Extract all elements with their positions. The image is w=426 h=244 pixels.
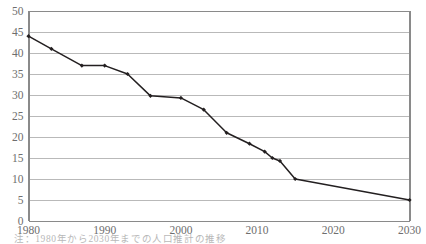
y-tick-label: 10 [12,173,24,185]
caption-strip: 注：1980年から2030年までの人口推計の推移 [0,234,426,244]
y-tick-label: 35 [12,68,24,80]
y-tick-label: 15 [12,152,24,164]
data-point-marker [103,64,107,68]
y-tick-label: 25 [12,110,24,122]
y-tick-label: 5 [18,194,24,206]
data-series-group [26,34,411,202]
data-point-marker [407,198,411,202]
y-tick-label: 20 [12,131,24,143]
y-tick-label: 45 [12,26,24,38]
y-tick-label: 40 [12,47,24,59]
chart-canvas: 05101520253035404550 1980199020002010202… [0,0,426,244]
y-tick-label: 50 [12,5,24,17]
chart-caption: 注：1980年から2030年までの人口推計の推移 [14,234,226,244]
line-chart: 05101520253035404550 1980199020002010202… [0,0,426,244]
y-tick-label: 30 [12,89,24,101]
y-axis-tick-labels: 05101520253035404550 [12,5,24,227]
series-line [29,36,410,200]
